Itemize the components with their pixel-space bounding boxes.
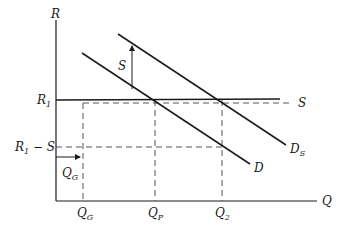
- r1-price-line: [56, 99, 280, 100]
- x-axis-label: Q: [322, 194, 332, 208]
- shift-arrow-label: S: [118, 59, 126, 73]
- shifted-demand-curve: [118, 34, 286, 145]
- qp-tick-label: QP: [148, 206, 164, 222]
- qg-arrow-label: QG: [62, 166, 79, 182]
- demand-label: D: [253, 161, 264, 175]
- qg-tick-label: QG: [77, 206, 94, 222]
- subsidy-demand-diagram: R Q R1 R1 − S S S D DS QG QG QP Q2: [0, 0, 340, 228]
- r1-minus-s-label: R1 − S: [14, 140, 55, 156]
- y-axis-label: R: [50, 7, 60, 21]
- r1-label: R1: [36, 93, 51, 109]
- q2-tick-label: Q2: [215, 206, 230, 222]
- supply-label: S: [298, 96, 306, 110]
- shifted-demand-label: DS: [289, 142, 306, 158]
